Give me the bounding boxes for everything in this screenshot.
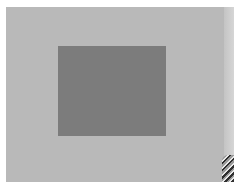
striped-corner-object	[222, 155, 234, 182]
image-frame	[0, 0, 242, 185]
dark-gray-square	[58, 46, 166, 136]
bottom-border	[0, 182, 242, 185]
